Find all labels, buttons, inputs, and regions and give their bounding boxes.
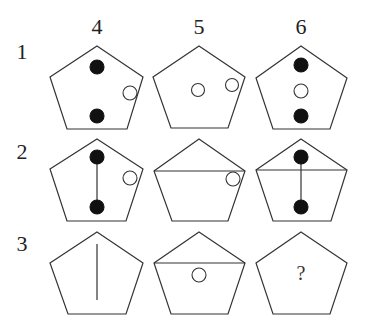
black-dot [294,109,308,123]
white-circle [123,86,137,100]
cell-r2-c5 [154,139,245,221]
column-label-5: 5 [194,16,205,38]
black-dot [294,200,308,214]
cell-r1-c5 [153,46,245,128]
white-circle [294,84,308,98]
cell-r2-c4 [50,139,143,221]
white-circle [226,79,239,92]
white-circle [192,268,206,282]
column-label-6: 6 [296,16,307,38]
question-mark: ? [297,263,306,283]
black-dot [90,150,104,164]
cell-r2-c6 [256,139,347,221]
cell-r3-c5 [154,232,245,314]
black-dot [90,60,104,74]
row-label-2: 2 [17,141,28,163]
cell-r1-c6 [256,46,347,129]
black-dot [294,58,308,72]
column-label-4: 4 [92,16,103,38]
black-dot [90,200,104,214]
puzzle-grid [0,0,365,329]
white-circle [226,172,240,186]
white-circle [192,84,205,97]
black-dot [90,109,104,123]
row-label-1: 1 [17,41,28,63]
black-dot [294,150,308,164]
row-label-3: 3 [17,233,28,255]
cell-r3-c4 [50,232,143,314]
white-circle [123,171,137,185]
cell-r1-c4 [50,46,143,129]
